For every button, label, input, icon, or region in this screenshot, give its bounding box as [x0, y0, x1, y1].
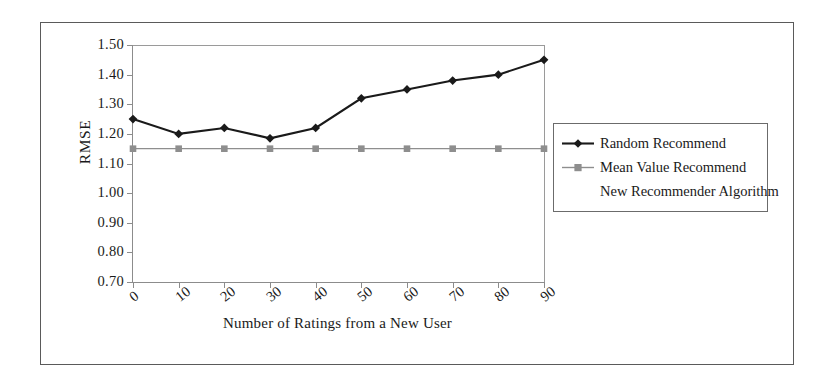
- plot-area: 1.501.401.301.201.101.000.900.800.70 010…: [132, 45, 544, 283]
- x-tick: [133, 282, 134, 288]
- data-point-square: [130, 145, 137, 152]
- x-tick-label: 40: [309, 283, 331, 305]
- x-tick-label: 20: [217, 283, 239, 305]
- y-tick-label: 1.40: [97, 66, 124, 83]
- y-tick-label: 0.90: [97, 214, 124, 231]
- data-point-square: [404, 145, 411, 152]
- legend-item: Mean Value Recommend: [561, 155, 760, 179]
- x-axis-title: Number of Ratings from a New User: [132, 315, 543, 332]
- data-point-diamond: [220, 124, 229, 133]
- y-tick-label: 1.20: [97, 125, 124, 142]
- y-tick-label: 1.10: [97, 155, 124, 172]
- x-tick-label: 10: [172, 283, 194, 305]
- data-point-diamond: [266, 134, 275, 143]
- data-point-diamond: [403, 85, 412, 94]
- chart-legend: Random RecommendMean Value RecommendNew …: [553, 123, 768, 212]
- legend-item: New Recommender Algorithm: [561, 179, 760, 203]
- x-tick-label: 50: [354, 283, 376, 305]
- plot-right-border: [544, 45, 545, 282]
- data-point-diamond: [540, 55, 549, 64]
- legend-square-icon: [561, 160, 595, 174]
- legend-item-label: Mean Value Recommend: [600, 160, 746, 175]
- x-tick-label: 60: [400, 283, 422, 305]
- data-point-square: [221, 145, 228, 152]
- y-axis-title-label: RMSE: [76, 119, 94, 164]
- series-line: [133, 60, 544, 139]
- data-point-diamond: [448, 76, 457, 85]
- data-point-square: [541, 145, 548, 152]
- y-tick-label: 1.00: [97, 184, 124, 201]
- legend-item-label: New Recommender Algorithm: [600, 184, 779, 199]
- data-point-square: [175, 145, 182, 152]
- x-tick-label: 80: [491, 283, 513, 305]
- legend-item-label: Random Recommend: [600, 136, 726, 151]
- y-tick-label: 1.50: [97, 36, 124, 53]
- data-point-square: [312, 145, 319, 152]
- data-point-square: [267, 145, 274, 152]
- data-point-diamond: [129, 115, 138, 124]
- data-point-diamond: [494, 70, 503, 79]
- x-tick-label: 70: [446, 283, 468, 305]
- x-tick-label: 0: [126, 288, 142, 306]
- x-tick-label: 30: [263, 283, 285, 305]
- y-tick-label: 1.30: [97, 95, 124, 112]
- data-point-square: [358, 145, 365, 152]
- data-point-square: [449, 145, 456, 152]
- legend-item: Random Recommend: [561, 131, 760, 155]
- y-tick-label: 0.80: [97, 244, 124, 261]
- series-plot: [133, 45, 544, 282]
- data-point-square: [495, 145, 502, 152]
- x-tick-label: 90: [537, 283, 559, 305]
- figure-frame: RMSE 1.501.401.301.201.101.000.900.800.7…: [40, 22, 794, 365]
- y-tick-label: 0.70: [97, 273, 124, 290]
- legend-diamond-icon: [561, 136, 595, 150]
- data-point-diamond: [174, 129, 183, 138]
